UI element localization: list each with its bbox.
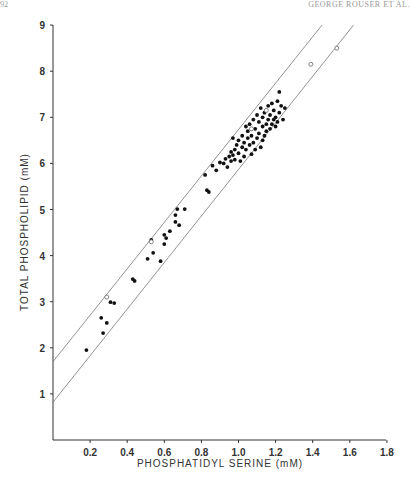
filled-data-point bbox=[231, 153, 235, 157]
filled-data-point bbox=[84, 348, 88, 352]
filled-data-point bbox=[105, 321, 109, 325]
filled-data-point bbox=[259, 145, 263, 149]
filled-data-point bbox=[266, 118, 270, 122]
open-data-point bbox=[264, 108, 268, 112]
scatter-chart: 0.20.40.60.81.01.21.41.61.8 123456789 PH… bbox=[0, 0, 410, 485]
filled-data-point bbox=[257, 132, 261, 136]
axes bbox=[53, 25, 386, 440]
filled-data-point bbox=[244, 125, 248, 129]
x-tick-label: 0.2 bbox=[83, 447, 97, 458]
open-data-point bbox=[335, 46, 339, 50]
filled-data-point bbox=[183, 207, 187, 211]
x-tick-label: 0.6 bbox=[157, 447, 171, 458]
x-ticks: 0.20.40.60.81.01.21.41.61.8 bbox=[83, 440, 394, 458]
filled-data-point bbox=[233, 158, 237, 162]
filled-data-point bbox=[229, 159, 233, 163]
filled-data-point bbox=[255, 113, 259, 117]
filled-data-point bbox=[246, 136, 250, 140]
filled-data-point bbox=[261, 138, 265, 142]
filled-data-point bbox=[240, 134, 244, 138]
y-tick-label: 9 bbox=[39, 20, 45, 31]
filled-data-point bbox=[264, 122, 268, 126]
filled-data-point bbox=[159, 259, 163, 263]
y-tick-label: 5 bbox=[39, 205, 45, 216]
upper-bound-line bbox=[53, 25, 322, 362]
filled-data-point bbox=[242, 155, 246, 159]
filled-data-point bbox=[261, 115, 265, 119]
filled-data-point bbox=[283, 106, 287, 110]
y-tick-label: 2 bbox=[39, 343, 45, 354]
x-tick-label: 1.0 bbox=[232, 447, 246, 458]
open-data-point bbox=[249, 127, 253, 131]
y-tick-label: 3 bbox=[39, 297, 45, 308]
reference-lines bbox=[53, 25, 354, 402]
filled-data-point bbox=[237, 151, 241, 155]
filled-data-point bbox=[244, 148, 248, 152]
filled-data-point bbox=[164, 236, 168, 240]
filled-data-point bbox=[255, 136, 259, 140]
x-tick-label: 1.4 bbox=[306, 447, 320, 458]
filled-data-point bbox=[224, 157, 228, 161]
filled-data-point bbox=[133, 279, 137, 283]
filled-data-point bbox=[257, 120, 261, 124]
filled-data-point bbox=[251, 141, 255, 145]
filled-data-point bbox=[268, 127, 272, 131]
filled-data-point bbox=[270, 122, 274, 126]
filled-data-point bbox=[237, 138, 241, 142]
filled-data-point bbox=[272, 108, 276, 112]
filled-data-point bbox=[274, 125, 278, 129]
filled-data-point bbox=[248, 122, 252, 126]
filled-data-point bbox=[240, 145, 244, 149]
filled-data-point bbox=[250, 134, 254, 138]
filled-data-point bbox=[174, 220, 178, 224]
filled-data-point bbox=[268, 113, 272, 117]
filled-data-point bbox=[274, 115, 278, 119]
filled-data-point bbox=[261, 125, 265, 129]
filled-data-point bbox=[277, 111, 281, 115]
y-ticks: 123456789 bbox=[39, 20, 53, 400]
filled-data-point bbox=[270, 102, 274, 106]
filled-data-point bbox=[109, 300, 113, 304]
filled-data-point bbox=[263, 134, 267, 138]
filled-data-point bbox=[214, 168, 218, 172]
filled-data-point bbox=[276, 99, 280, 103]
filled-data-point bbox=[250, 152, 254, 156]
filled-data-point bbox=[253, 148, 257, 152]
x-tick-label: 1.2 bbox=[269, 447, 283, 458]
filled-data-point bbox=[207, 190, 211, 194]
filled-data-point bbox=[281, 118, 285, 122]
filled-data-point bbox=[233, 148, 237, 152]
filled-data-point bbox=[162, 242, 166, 246]
filled-data-point bbox=[203, 173, 207, 177]
filled-data-point bbox=[266, 104, 270, 108]
x-tick-label: 1.6 bbox=[343, 447, 357, 458]
filled-data-point bbox=[259, 106, 263, 110]
open-data-point bbox=[105, 295, 109, 299]
filled-data-point bbox=[146, 257, 150, 261]
x-tick-label: 0.8 bbox=[194, 447, 208, 458]
filled-data-point bbox=[211, 164, 215, 168]
y-axis-title: TOTAL PHOSPHOLIPID (mM) bbox=[19, 153, 30, 311]
filled-data-point bbox=[162, 233, 166, 237]
filled-data-point bbox=[175, 207, 179, 211]
y-tick-label: 8 bbox=[39, 66, 45, 77]
filled-data-point bbox=[264, 129, 268, 133]
filled-data-point bbox=[279, 104, 283, 108]
filled-data-point bbox=[277, 90, 281, 94]
filled-data-point bbox=[225, 165, 229, 169]
y-tick-label: 7 bbox=[39, 112, 45, 123]
filled-data-point bbox=[242, 141, 246, 145]
lower-bound-line bbox=[53, 25, 354, 402]
filled-data-point bbox=[174, 213, 178, 217]
y-tick-label: 4 bbox=[39, 251, 45, 262]
filled-data-point bbox=[101, 331, 105, 335]
filled-data-point bbox=[231, 136, 235, 140]
filled-data-point bbox=[229, 150, 233, 154]
filled-data-point bbox=[246, 129, 250, 133]
x-tick-label: 1.8 bbox=[380, 447, 394, 458]
filled-data-point bbox=[251, 118, 255, 122]
filled-data-point bbox=[151, 251, 155, 255]
filled-data-point bbox=[112, 301, 116, 305]
filled-data-point bbox=[168, 229, 172, 233]
y-tick-label: 1 bbox=[39, 389, 45, 400]
